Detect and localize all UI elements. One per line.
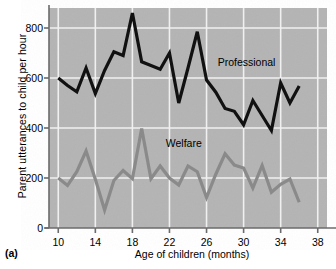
series-label-professional: Professional <box>218 56 276 68</box>
x-tick-label: 30 <box>229 236 259 248</box>
x-tick-label: 22 <box>154 236 184 248</box>
y-tick-label: 200 <box>9 172 43 184</box>
y-tick-label: 600 <box>9 72 43 84</box>
x-tick-label: 18 <box>117 236 147 248</box>
y-axis-title: Parent utterances to child per hour <box>14 6 30 226</box>
chart-plot-area <box>0 0 336 269</box>
x-tick-label: 10 <box>43 236 73 248</box>
figure-panel: Parent utterances to child per hour Age … <box>0 0 336 269</box>
y-tick-label: 0 <box>9 222 43 234</box>
x-tick-label: 38 <box>303 236 333 248</box>
x-tick-label: 34 <box>266 236 296 248</box>
y-tick-label: 800 <box>9 22 43 34</box>
series-label-welfare: Welfare <box>166 137 202 149</box>
x-tick-label: 14 <box>80 236 110 248</box>
x-axis-title: Age of children (months) <box>48 248 336 260</box>
y-tick-label: 400 <box>9 122 43 134</box>
x-tick-label: 26 <box>192 236 222 248</box>
panel-tag: (a) <box>5 247 18 259</box>
plot-texture <box>49 8 327 228</box>
